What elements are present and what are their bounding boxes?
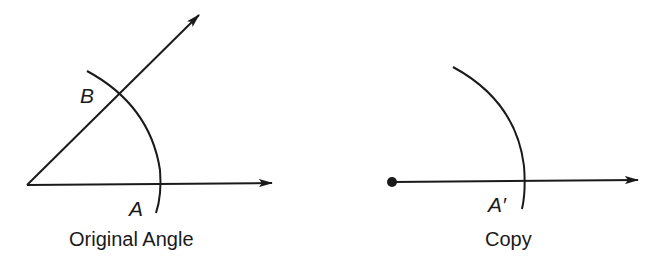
copy-compass-arc — [453, 67, 525, 209]
caption-original-angle: Original Angle — [69, 228, 194, 251]
original-angle — [27, 15, 272, 213]
diagram-canvas: B A Original Angle A′ Copy — [0, 0, 653, 267]
copy-construction — [387, 67, 638, 209]
point-label-b: B — [80, 84, 94, 108]
horizontal-ray — [27, 183, 272, 185]
construction-drawing — [0, 0, 653, 267]
copy-ray — [392, 180, 638, 182]
point-label-a: A — [129, 197, 143, 221]
point-label-a-prime: A′ — [488, 193, 506, 217]
caption-copy: Copy — [485, 228, 532, 251]
compass-arc — [87, 71, 161, 213]
angled-ray — [27, 15, 199, 185]
